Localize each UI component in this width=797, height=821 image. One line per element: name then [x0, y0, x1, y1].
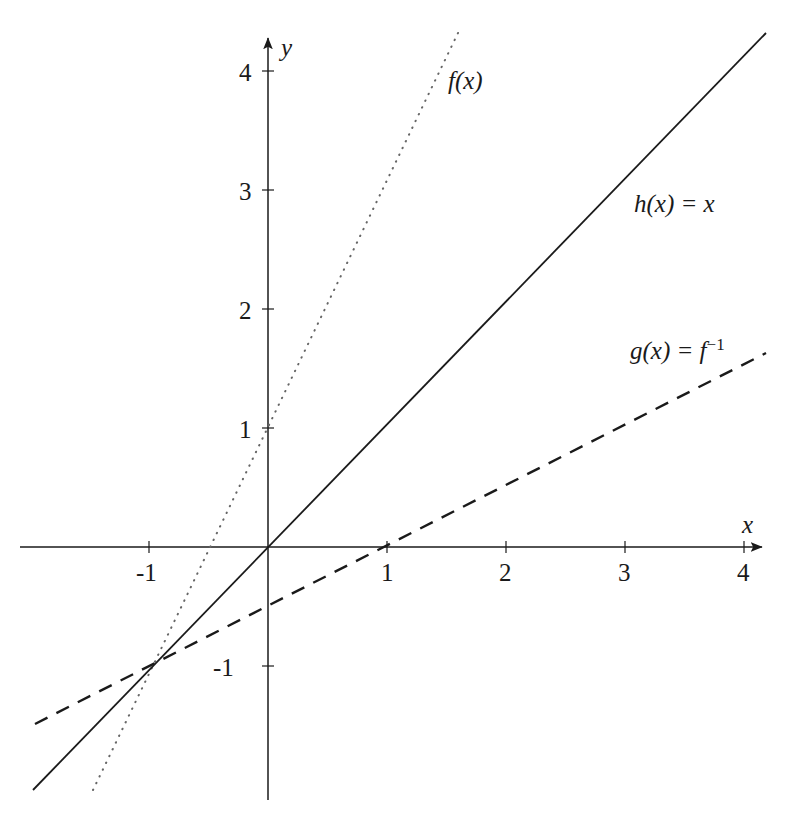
function-graph-figure: -1 1 2 3 4 -1 1 2 3 4 x y f(x) h(x) = x … [0, 0, 797, 821]
x-tick-label-2: 2 [499, 560, 512, 585]
x-tick-label-1: 1 [381, 560, 394, 585]
y-axis-label: y [281, 35, 292, 60]
y-tick-label-neg1: -1 [213, 655, 234, 680]
x-axis-label: x [742, 512, 753, 537]
curve-label-h: h(x) = x [634, 191, 715, 216]
curve-f-dotted [93, 33, 458, 790]
x-tick-label-3: 3 [618, 560, 631, 585]
curve-h-solid [33, 33, 766, 790]
y-tick-label-3: 3 [239, 179, 252, 204]
curve-g-dashed [35, 353, 766, 724]
curve-label-f: f(x) [448, 68, 483, 93]
plot-canvas [0, 0, 797, 821]
y-tick-label-1: 1 [239, 417, 252, 442]
y-tick-label-4: 4 [239, 60, 252, 85]
x-tick-label-neg1: -1 [136, 560, 157, 585]
y-tick-label-2: 2 [239, 298, 252, 323]
x-tick-label-4: 4 [737, 560, 750, 585]
curve-label-g: g(x) = f−1 [630, 336, 725, 363]
curve-label-g-exponent: −1 [707, 335, 725, 354]
curve-label-g-base: g(x) = f [630, 337, 707, 364]
